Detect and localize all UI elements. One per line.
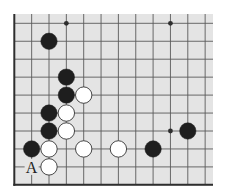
black-stone: [41, 123, 57, 139]
white-stone: [110, 141, 126, 157]
white-stone: [58, 123, 74, 139]
point-label-a: A: [26, 159, 38, 176]
black-stone: [180, 123, 196, 139]
go-board: A: [0, 0, 228, 194]
black-stone: [41, 33, 57, 49]
star-point: [64, 21, 69, 26]
star-point: [168, 129, 173, 134]
black-stone: [58, 87, 74, 103]
black-stone: [58, 69, 74, 85]
white-stone: [76, 141, 92, 157]
black-stone: [41, 105, 57, 121]
white-stone: [41, 159, 57, 175]
star-point: [168, 21, 173, 26]
white-stone: [58, 105, 74, 121]
white-stone: [41, 141, 57, 157]
black-stone: [23, 141, 39, 157]
point-labels: A: [25, 159, 39, 176]
white-stone: [76, 87, 92, 103]
black-stone: [145, 141, 161, 157]
